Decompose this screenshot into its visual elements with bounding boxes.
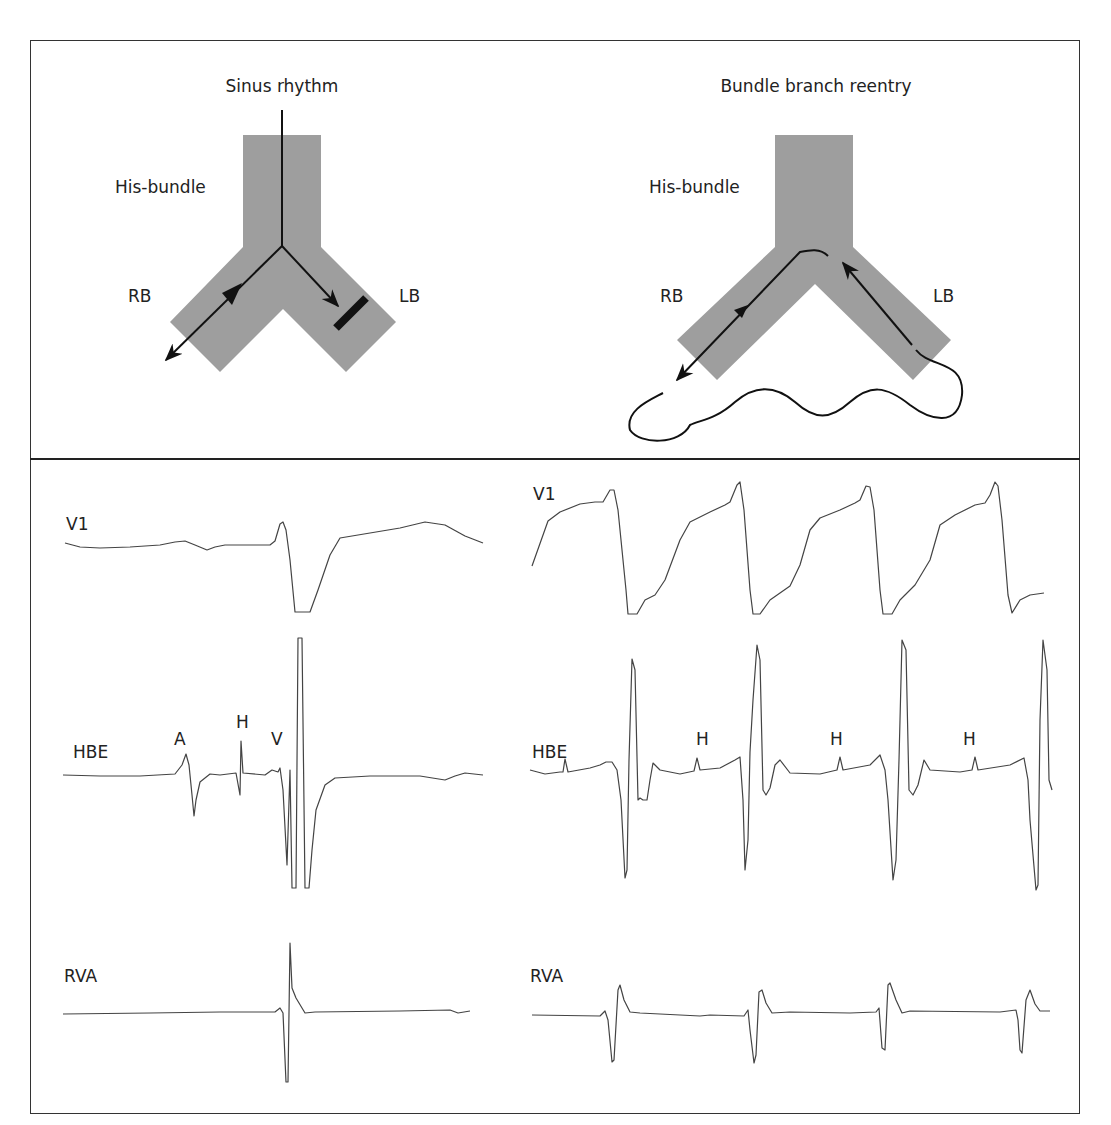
hbe-h1-annotation: H bbox=[696, 729, 709, 749]
rva-label-right: RVA bbox=[530, 966, 563, 986]
v1-label-left: V1 bbox=[66, 514, 88, 534]
hbe-a-annotation: A bbox=[174, 729, 186, 749]
lb-label: LB bbox=[399, 286, 420, 306]
sinus-rhythm-title: Sinus rhythm bbox=[226, 76, 339, 96]
hbe-trace-right bbox=[530, 640, 1052, 890]
rb-label-reentry: RB bbox=[660, 286, 683, 306]
rva-label-left: RVA bbox=[64, 966, 97, 986]
v1-trace-left bbox=[65, 522, 483, 612]
v1-trace-right bbox=[532, 482, 1044, 614]
rva-trace-right bbox=[532, 983, 1050, 1063]
hbe-h2-annotation: H bbox=[830, 729, 843, 749]
hbe-h3-annotation: H bbox=[963, 729, 976, 749]
hbe-label-right: HBE bbox=[532, 742, 567, 762]
his-bundle-label-reentry: His-bundle bbox=[649, 177, 740, 197]
reentry-traces: V1 HBE H H H RVA bbox=[530, 482, 1052, 1063]
v1-label-right: V1 bbox=[533, 484, 555, 504]
lb-label-reentry: LB bbox=[933, 286, 954, 306]
hbe-h-annotation: H bbox=[236, 712, 249, 732]
reentry-title: Bundle branch reentry bbox=[720, 76, 911, 96]
hbe-trace-left bbox=[63, 638, 483, 888]
figure-canvas: Sinus rhythm His-bundle RB LB Bundle bra… bbox=[0, 0, 1111, 1125]
his-bundle-label: His-bundle bbox=[115, 177, 206, 197]
hbe-label-left: HBE bbox=[73, 742, 108, 762]
rva-trace-left bbox=[63, 943, 470, 1082]
sinus-rhythm-diagram: Sinus rhythm His-bundle RB LB bbox=[115, 76, 420, 372]
rb-label: RB bbox=[128, 286, 151, 306]
hbe-v-annotation: V bbox=[271, 729, 283, 749]
bundle-branch-reentry-diagram: Bundle branch reentry His-bundle RB LB bbox=[629, 76, 962, 441]
sinus-traces: V1 HBE A H V RVA bbox=[63, 514, 483, 1082]
